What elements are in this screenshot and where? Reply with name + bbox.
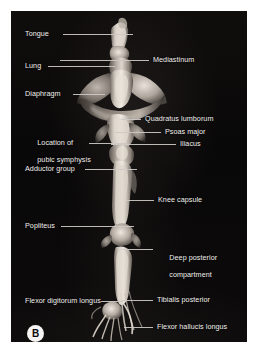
label-mediastinum-text: Mediastinum [153,55,194,64]
panel-badge-letter: B [32,329,39,339]
label-quadratus-lumborum-text: Quadratus lumborum [145,114,213,123]
label-tongue: Tongue [25,30,49,39]
pelvis-region [109,144,134,166]
label-tibialis-posterior-text: Tibialis posterior [157,295,210,304]
label-lung-text: Lung [25,61,41,70]
anatomy-figure: Tongue Lung Diaphragm Location of pubic … [0,0,258,358]
label-knee-capsule: Knee capsule [158,196,202,205]
foot-flexor-tendons [92,301,133,341]
label-quadratus-lumborum: Quadratus lumborum [145,115,213,124]
label-pubic-symphysis-line1: Location of [37,138,73,147]
label-flexor-digitorum-longus-text: Flexor digitorum longus [25,296,101,305]
leader-iliacus [111,144,176,145]
label-knee-capsule-text: Knee capsule [158,195,202,204]
label-iliacus: Iliacus [180,140,201,149]
specimen-photo-plate: Tongue Lung Diaphragm Location of pubic … [11,11,247,342]
label-adductor-group-text: Adductor group [25,164,75,173]
head-tongue-region [110,18,129,62]
label-deep-posterior-line1: Deep posterior [169,253,217,262]
leg-deep-posterior-compartment [114,246,142,331]
label-pubic-symphysis-line2: pubic symphysis [37,155,90,164]
label-flexor-digitorum-longus: Flexor digitorum longus [25,297,101,306]
leader-flexor-hallucis-longus [124,327,153,328]
leader-tibialis-posterior [121,300,153,301]
leader-diaphragm [73,94,105,95]
label-flexor-hallucis-longus: Flexor hallucis longus [157,323,227,332]
label-deep-posterior-line2: compartment [169,270,212,279]
label-tongue-text: Tongue [25,29,49,38]
label-lung: Lung [25,62,41,71]
label-mediastinum: Mediastinum [153,56,194,65]
panel-badge-b: B [27,325,44,342]
label-adductor-group: Adductor group [25,165,75,174]
thigh-adductor-group [112,160,137,229]
label-iliacus-text: Iliacus [180,139,201,148]
label-psoas-major: Psoas major [165,128,206,137]
label-diaphragm: Diaphragm [25,90,61,99]
label-popliteus: Popliteus [25,222,55,231]
label-diaphragm-text: Diaphragm [25,89,61,98]
leader-deep-posterior [121,249,153,250]
leader-mediastinum [60,60,149,61]
leader-popliteus [61,226,134,227]
leader-flexor-digitorum-longus [101,301,123,302]
leader-knee-capsule [126,200,154,201]
label-psoas-major-text: Psoas major [165,127,206,136]
leader-tongue [63,34,133,35]
label-popliteus-text: Popliteus [25,221,55,230]
leader-adductor-group [85,169,137,170]
leader-quadratus-lumborum [121,119,141,120]
label-flexor-hallucis-longus-text: Flexor hallucis longus [157,322,227,331]
leader-lung [48,66,115,67]
leader-psoas-major [115,132,161,133]
label-deep-posterior-compartment: Deep posterior compartment [157,245,217,288]
label-tibialis-posterior: Tibialis posterior [157,296,210,305]
